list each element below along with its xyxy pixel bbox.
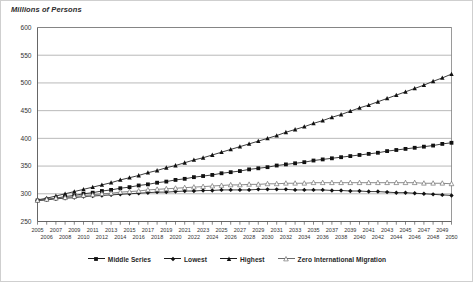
x-tick-label: 2013 [105,227,117,233]
x-tick-label: 2011 [87,227,99,233]
legend-item[interactable]: Middle Series [88,255,151,263]
data-point-marker [348,154,352,158]
x-tick-label: 2030 [261,234,273,240]
data-point-marker [440,193,444,197]
data-point-marker [247,188,251,192]
data-point-marker [449,72,453,76]
x-tick-label: 2042 [372,234,384,240]
data-point-marker [321,188,325,192]
x-tick-label: 2006 [41,234,53,240]
x-tick-label: 2024 [206,234,218,240]
x-tick-label: 2032 [280,234,292,240]
data-point-marker [339,155,343,159]
x-tick-label: 2028 [243,234,255,240]
data-point-marker [330,156,334,160]
data-point-marker [367,189,371,193]
series-line [38,74,452,200]
x-tick-label: 2033 [289,227,301,233]
x-tick-label: 2034 [298,234,310,240]
data-point-marker [266,165,270,169]
x-tick-label: 2043 [381,227,393,233]
legend-marker-glyph [283,256,289,262]
data-point-marker [422,192,426,196]
data-point-marker [339,188,343,192]
x-tick-label: 2026 [225,234,237,240]
x-tick-label: 2021 [179,227,191,233]
data-point-marker [164,180,168,184]
data-point-marker [210,173,214,177]
data-point-marker [94,257,98,261]
data-point-marker [284,257,289,261]
x-tick-label: 2020 [169,234,181,240]
filled-square-icon [88,255,105,263]
filled-triangle-icon [220,255,237,263]
x-axis-ticks [38,222,452,225]
data-point-marker [431,192,435,196]
data-point-marker [238,169,242,173]
x-tick-label: 2007 [50,227,62,233]
series-line [38,143,452,201]
legend-item[interactable]: Lowest [164,255,207,263]
y-tick-label: 450 [20,107,31,114]
legend-marker-glyph [226,256,232,262]
x-tick-label: 2008 [59,234,71,240]
data-point-marker [293,161,297,165]
data-point-marker [229,170,233,174]
data-point-marker [403,190,407,194]
series-lowest [35,187,453,202]
y-tick-label: 350 [20,162,31,169]
x-tick-label: 2012 [96,234,108,240]
open-triangle-icon [278,255,295,263]
x-tick-label: 2048 [427,234,439,240]
data-point-marker [367,152,371,156]
x-tick-label: 2029 [252,227,264,233]
data-point-marker [146,182,150,186]
x-tick-label: 2039 [344,227,356,233]
data-point-marker [358,153,362,157]
series-middle-series [36,141,454,202]
chart-figure: Millions of Persons 25030035040045050055… [0,0,474,283]
x-tick-label: 2049 [436,227,448,233]
data-point-marker [302,160,306,164]
data-point-marker [413,191,417,195]
x-tick-label: 2018 [151,234,163,240]
data-point-marker [210,188,214,192]
legend-item-label: Highest [240,256,265,263]
x-tick-label: 2037 [326,227,338,233]
data-point-marker [376,189,380,193]
filled-diamond-icon [164,255,181,263]
data-point-marker [170,257,174,261]
x-tick-label: 2036 [317,234,329,240]
series-zero-international-migration [35,180,454,202]
legend-item[interactable]: Zero International Migration [278,255,387,263]
data-point-marker [330,188,334,192]
data-point-marker [431,144,435,148]
data-point-marker [293,188,297,192]
data-point-marker [238,188,242,192]
x-tick-label: 2017 [142,227,154,233]
legend-item[interactable]: Highest [220,255,265,263]
x-tick-label: 2040 [353,234,365,240]
data-point-marker [201,174,205,178]
y-tick-label: 550 [20,52,31,59]
data-series [35,72,454,203]
chart-legend: Middle SeriesLowestHighestZero Internati… [0,255,474,263]
legend-marker-glyph [93,256,99,262]
legend-item-label: Zero International Migration [298,256,387,263]
data-point-marker [312,159,316,163]
chart-svg: 250300350400450500550600 200520072009201… [0,0,474,283]
data-point-marker [385,149,389,153]
data-point-marker [256,166,260,170]
y-tick-label: 500 [20,79,31,86]
x-tick-label: 2014 [114,234,126,240]
y-tick-label: 250 [20,218,31,225]
data-point-marker [348,189,352,193]
data-point-marker [404,147,408,151]
data-point-marker [450,141,454,145]
legend-item-label: Middle Series [108,256,151,263]
legend-item-label: Lowest [184,256,207,263]
x-tick-label: 2050 [445,234,457,240]
data-point-marker [137,184,141,188]
y-tick-label: 400 [20,135,31,142]
x-tick-label: 2045 [399,227,411,233]
